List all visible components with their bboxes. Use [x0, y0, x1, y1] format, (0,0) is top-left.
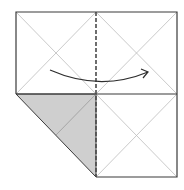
origami-diagram — [0, 0, 184, 190]
fold-diagram-svg — [0, 0, 184, 190]
fold-arrow-icon — [50, 69, 148, 82]
